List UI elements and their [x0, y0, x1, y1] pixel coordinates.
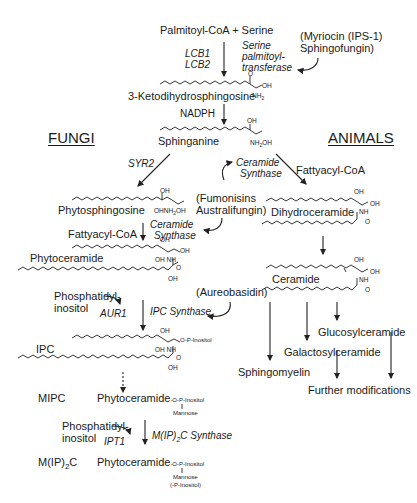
- inhibitor-arrow-myriocin: [298, 58, 318, 70]
- fungi-fattyacyl-label: Fattyacyl-CoA: [68, 228, 137, 240]
- dihydro-o: O: [365, 218, 370, 225]
- gene-lcb1: LCB1: [185, 48, 210, 59]
- phytocer-ohnh: OH NH: [155, 256, 176, 263]
- inhibitor-aureobasidin: (Aureobasidin): [196, 286, 268, 298]
- inhibitor-myriocin-1: (Myriocin (IPS-1): [300, 30, 383, 42]
- phyto-oh-top: OH: [160, 187, 170, 194]
- ipc-oh-top: OH: [160, 327, 170, 334]
- cer-nh: NH: [359, 276, 368, 283]
- pi-label-1a: Phosphatidyl-: [54, 290, 121, 302]
- keto-nh2: NH2: [252, 92, 264, 102]
- phytocer-o: O: [176, 264, 181, 271]
- gene-aur1: AUR1: [100, 308, 127, 319]
- pi-label-2a: Phosphatidyl-: [62, 420, 129, 432]
- mip2c-synthase-label: M(IP)2C Synthase: [152, 430, 232, 445]
- inhibitor-arrow-fumonisins-down: [204, 218, 222, 231]
- sphinganine-oh: OH: [247, 117, 257, 124]
- sphingomyelin-label: Sphingomyelin: [238, 366, 310, 378]
- animal-fattyacyl-label: Fattyacyl-CoA: [296, 164, 365, 176]
- gene-lcb2: LCB2: [185, 59, 210, 70]
- mipc-label: MIPC: [38, 392, 66, 404]
- phytoceramide-label: Phytoceramide: [30, 252, 103, 264]
- sphingolipid-pathway-diagram: FUNGI ANIMALS Palmitoyl-CoA + Serine LCB…: [0, 0, 417, 503]
- inhibitor-fumonisins-2: Australifungin): [196, 204, 266, 216]
- enzyme-spt-2: palmitoyl-: [242, 51, 285, 62]
- ceramide-label: Ceramide: [272, 273, 320, 285]
- sphinganine-label: Sphinganine: [158, 135, 219, 147]
- phytosphingosine-label: Phytosphingosine: [58, 204, 145, 216]
- mip2c-structure: Phytoceramide-O-P-Inositol: [97, 456, 204, 468]
- pi-label-2b: inositol: [62, 432, 96, 444]
- inhibitor-fumonisins-1: (Fumonisins: [196, 192, 256, 204]
- ipc-o: O: [176, 354, 181, 361]
- sphinganine-chain: [160, 124, 262, 134]
- ipc-opi: O-P-Inositol: [180, 337, 212, 344]
- fungi-cs-1: Ceramide: [150, 219, 193, 230]
- gene-ipt1: IPT1: [104, 436, 125, 447]
- ketodihydrosphingosine-chain: [160, 76, 262, 88]
- glucosylceramide-label: Glucosylceramide: [318, 326, 405, 338]
- dihydro-oh-right: OH: [370, 200, 380, 207]
- keto-oh: OH: [262, 82, 272, 89]
- keto-o: O: [248, 70, 253, 77]
- substrates-label: Palmitoyl-CoA + Serine: [160, 24, 273, 36]
- mip2c-mannose: Mannose: [173, 474, 198, 481]
- galactosylceramide-label: Galactosylceramide: [284, 346, 381, 358]
- phytocer-oh-right: OH: [180, 247, 190, 254]
- mip2c-pinositol: (-P-Inositol): [170, 482, 201, 489]
- enzyme-spt-1: Serine: [242, 40, 271, 51]
- inhibitor-myriocin-2: Sphingofungin): [300, 42, 374, 54]
- cer-oh-top: OH: [354, 256, 364, 263]
- nadph-label: NADPH: [180, 108, 215, 120]
- further-modifications-label: Further modifications: [308, 384, 411, 396]
- inhibitor-arrow-fumonisins-up: [222, 162, 232, 180]
- pi-label-1b: inositol: [54, 302, 88, 314]
- ipc-synthase-label: IPC Synthase: [150, 306, 211, 317]
- cer-oh-right: OH: [370, 268, 380, 275]
- ipc-ohnh: OH NH: [155, 346, 176, 353]
- animal-cs-2: Synthase: [240, 168, 282, 179]
- animals-header: ANIMALS: [328, 130, 394, 146]
- mipc-mannose: Mannose: [173, 410, 198, 417]
- phytocer-oh-top: OH: [160, 236, 170, 243]
- dihydroceramide-label: Dihydroceramide: [271, 206, 354, 218]
- phytosphingosine-chain: [72, 193, 184, 204]
- ketodihydrosphingosine-label: 3-Ketodihydrosphingosine: [128, 90, 255, 102]
- phytocer-oh-bottom: OH: [168, 275, 178, 282]
- mip2c-label: M(IP)2C: [38, 456, 77, 473]
- fungi-header: FUNGI: [48, 130, 95, 146]
- ipc-label: IPC: [36, 343, 54, 355]
- animal-cs-1: Ceramide: [236, 157, 279, 168]
- dihydro-nh: NH: [359, 208, 368, 215]
- cer-o: O: [365, 286, 370, 293]
- dihydro-oh-top: OH: [354, 188, 364, 195]
- mipc-structure: Phytoceramide-O-P-Inositol: [97, 392, 204, 404]
- phyto-groups: OHNH2OH: [154, 207, 186, 217]
- inhibitor-arrow-aureobasidin: [208, 302, 230, 316]
- sphinganine-nh2: NH2OH: [250, 139, 272, 149]
- ipc-oh-bottom: OH: [168, 364, 178, 371]
- gene-syr2: SYR2: [128, 158, 154, 169]
